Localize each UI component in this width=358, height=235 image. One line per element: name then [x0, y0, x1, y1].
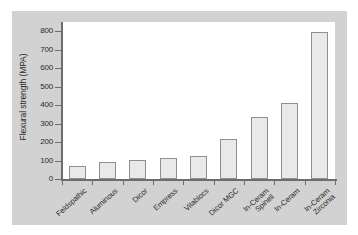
- x-tick-mark: [183, 180, 184, 185]
- y-tick-label-wrap: 700: [10, 46, 53, 54]
- y-tick-label-wrap: 400: [10, 101, 53, 109]
- x-tick-mark: [305, 180, 306, 185]
- x-tick-mark: [123, 180, 124, 185]
- bar: [160, 158, 177, 179]
- y-tick-mark: [55, 142, 62, 143]
- bar: [311, 32, 328, 179]
- figure: 0100200300400500600700800 Flexural stren…: [0, 0, 358, 235]
- y-axis-title: Flexural strength (MPA): [18, 37, 28, 157]
- y-tick-mark: [55, 68, 62, 69]
- x-tick-mark: [274, 180, 275, 185]
- y-tick-mark: [55, 161, 62, 162]
- y-tick-mark: [55, 31, 62, 32]
- y-tick-mark: [55, 179, 62, 180]
- bar: [251, 117, 268, 179]
- y-axis-line: [61, 22, 63, 180]
- y-tick-mark: [55, 124, 62, 125]
- x-tick-mark: [62, 180, 63, 185]
- bar: [190, 156, 207, 179]
- y-tick-label-wrap: 300: [10, 120, 53, 128]
- y-tick-label: 800: [13, 27, 53, 35]
- y-tick-mark: [55, 87, 62, 88]
- y-tick-mark: [55, 105, 62, 106]
- x-tick-mark: [153, 180, 154, 185]
- y-tick-label-wrap: 600: [10, 64, 53, 72]
- y-tick-label: 100: [13, 157, 53, 165]
- bar: [220, 139, 237, 179]
- x-tick-mark: [335, 180, 336, 185]
- y-tick-label-wrap: 200: [10, 138, 53, 146]
- x-tick-mark: [214, 180, 215, 185]
- y-tick-mark: [55, 50, 62, 51]
- y-tick-label-wrap: 500: [10, 83, 53, 91]
- x-tick-mark: [244, 180, 245, 185]
- bar: [99, 162, 116, 179]
- bar: [69, 166, 86, 179]
- bar: [281, 103, 298, 179]
- y-tick-label-wrap: 800: [10, 27, 53, 35]
- y-tick-label: 0: [13, 175, 53, 183]
- x-tick-mark: [92, 180, 93, 185]
- y-tick-label-wrap: 100: [10, 157, 53, 165]
- x-axis-line: [61, 179, 337, 181]
- y-tick-label-wrap: 0: [10, 175, 53, 183]
- bar: [129, 160, 146, 179]
